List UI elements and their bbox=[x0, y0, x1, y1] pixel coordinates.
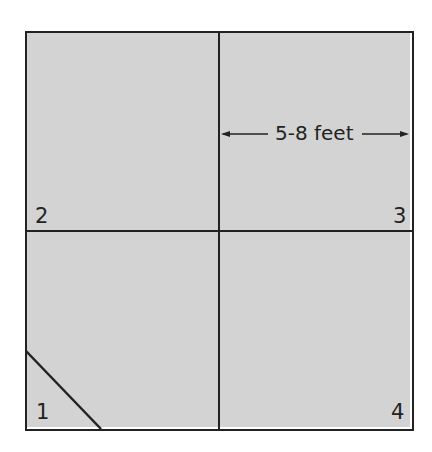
diagram-lines bbox=[0, 0, 432, 452]
quadrant-label-3: 3 bbox=[393, 206, 406, 227]
arrowhead-right-icon bbox=[400, 131, 409, 137]
quadrant-diagram: 5-8 feet 2 3 1 4 bbox=[0, 0, 432, 452]
quadrant-label-4: 4 bbox=[391, 402, 404, 423]
dimension-label: 5-8 feet bbox=[275, 123, 354, 143]
quadrant-label-1: 1 bbox=[36, 402, 49, 423]
arrowhead-left-icon bbox=[221, 131, 230, 137]
quadrant-label-2: 2 bbox=[35, 206, 48, 227]
